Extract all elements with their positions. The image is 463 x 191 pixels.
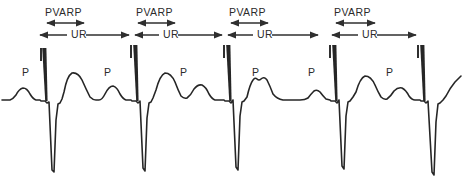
- ur-label-1: UR: [163, 28, 179, 40]
- annotation-ur-0: UR: [40, 28, 129, 40]
- annotation-ur-1: UR: [135, 28, 222, 40]
- pacing-spike-2: [226, 45, 231, 101]
- pvarp-label-0: PVARP: [45, 6, 82, 18]
- pacing-spike-1: [133, 45, 138, 101]
- pvarp-label-2: PVARP: [229, 6, 266, 18]
- pacing-spike-0: [42, 48, 47, 101]
- ur-label-0: UR: [71, 28, 87, 40]
- annotation-pvarp-2: PVARP: [229, 6, 268, 23]
- p-wave-label-1: P: [104, 66, 111, 78]
- pacing-spike-3: [332, 45, 337, 101]
- annotation-ur-2: UR: [228, 28, 318, 40]
- ur-label-3: UR: [362, 28, 378, 40]
- ecg-waveform: [2, 73, 461, 175]
- p-wave-label-0: P: [22, 66, 29, 78]
- annotation-pvarp-3: PVARP: [334, 6, 375, 23]
- annotation-pvarp-1: PVARP: [136, 6, 175, 23]
- p-wave-labels: P P P P P P: [22, 66, 393, 78]
- p-wave-label-4: P: [308, 66, 315, 78]
- ur-label-2: UR: [257, 28, 273, 40]
- p-wave-label-2: P: [180, 66, 187, 78]
- pvarp-label-1: PVARP: [136, 6, 173, 18]
- ecg-timing-diagram: PVARP UR PVARP UR PVARP: [0, 0, 463, 191]
- pacing-spike-4: [420, 45, 425, 101]
- ecg-diagram-canvas: PVARP UR PVARP UR PVARP: [0, 0, 463, 191]
- annotation-ur-3: UR: [332, 28, 416, 40]
- interval-annotations: PVARP UR PVARP UR PVARP: [40, 6, 416, 40]
- annotation-pvarp-0: PVARP: [45, 6, 84, 23]
- p-wave-label-5: P: [386, 66, 393, 78]
- pacing-spikes: [42, 45, 425, 101]
- ecg-trace-path: [2, 73, 461, 175]
- pvarp-label-3: PVARP: [334, 6, 371, 18]
- p-wave-label-3: P: [252, 66, 259, 78]
